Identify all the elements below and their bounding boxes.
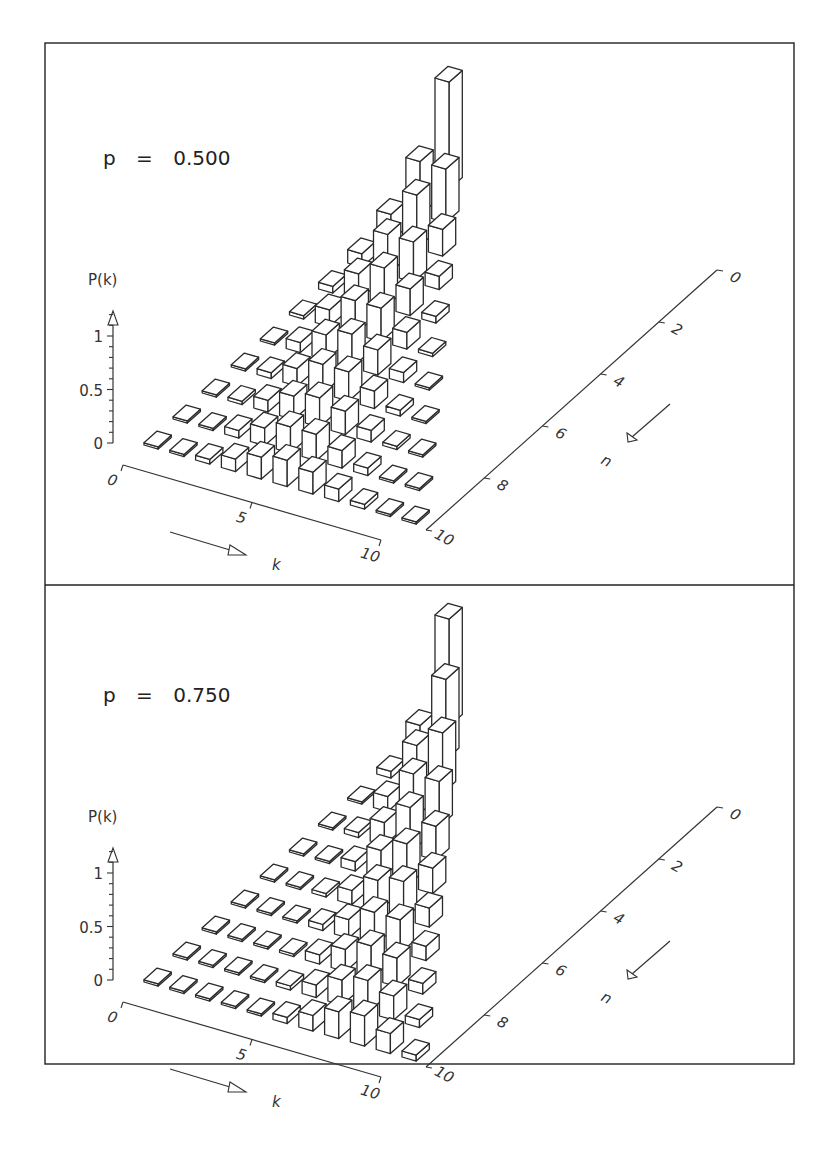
- bar: [251, 965, 278, 983]
- bar: [260, 327, 287, 345]
- bar: [257, 898, 284, 916]
- bar-top-face: [280, 938, 307, 954]
- bar: [409, 968, 436, 995]
- bar-grid: [144, 603, 462, 1061]
- bar: [173, 405, 200, 423]
- n-axis-tick-label: 6: [552, 423, 569, 443]
- bar-top-face: [228, 386, 255, 402]
- bar-top-face: [260, 327, 287, 343]
- bar-top-face: [173, 405, 200, 421]
- bar: [247, 441, 274, 479]
- bar: [254, 931, 281, 949]
- bar-top-face: [380, 465, 407, 481]
- figure: p = 0.500 00.51P(k)0510k0246810n p = 0.7…: [0, 0, 830, 1166]
- bar-top-face: [225, 957, 252, 973]
- bar: [315, 846, 342, 864]
- bar-top-face: [286, 872, 313, 888]
- bar: [405, 1004, 432, 1028]
- bar: [228, 386, 255, 405]
- p-axis-tick-label: 0: [93, 435, 103, 453]
- bar: [364, 334, 391, 375]
- bar-top-face: [290, 300, 317, 316]
- n-axis-title: n: [598, 988, 615, 1008]
- bar-top-face: [350, 489, 377, 505]
- bar: [348, 786, 375, 804]
- bar-top-face: [144, 431, 171, 447]
- bar-front-face: [419, 864, 433, 894]
- bar-top-face: [170, 976, 197, 992]
- k-axis-tick: [121, 465, 123, 471]
- n-axis-line: [426, 270, 717, 530]
- bar: [419, 338, 446, 357]
- n-axis-tick: [601, 911, 607, 912]
- bar-top-face: [419, 338, 446, 354]
- n-axis-tick: [659, 322, 665, 323]
- bar: [409, 439, 436, 457]
- bar: [402, 506, 429, 524]
- bar-top-face: [312, 878, 339, 894]
- bar-top-face: [228, 924, 255, 940]
- bar: [350, 489, 377, 510]
- bar: [257, 357, 284, 379]
- bar-top-face: [415, 372, 442, 388]
- bar-front-face: [364, 346, 378, 375]
- k-direction-arrow-icon: [228, 1082, 246, 1092]
- k-axis-tick-label: 10: [359, 544, 382, 567]
- bar: [199, 413, 226, 431]
- bar: [344, 817, 371, 838]
- panel-p-0750: p = 0.750 00.51P(k)0510k0246810n: [79, 603, 744, 1111]
- bar-top-face: [412, 406, 439, 422]
- bar: [221, 443, 248, 471]
- bar-top-face: [196, 983, 223, 999]
- bar: [312, 878, 339, 897]
- bar: [199, 950, 226, 968]
- bar-top-face: [247, 998, 274, 1014]
- bar-top-face: [202, 379, 229, 395]
- n-axis-line: [426, 807, 717, 1067]
- bar-top-face: [319, 812, 346, 828]
- bar-top-face: [231, 353, 258, 369]
- bar-grid: [144, 66, 462, 524]
- bar: [144, 431, 171, 449]
- bar-top-face: [383, 431, 410, 447]
- n-axis-tick: [426, 530, 432, 531]
- bar: [325, 996, 352, 1039]
- bar: [225, 957, 252, 975]
- bar: [402, 1039, 429, 1061]
- bar: [376, 499, 403, 517]
- bar: [290, 838, 317, 856]
- bar: [357, 415, 384, 443]
- bar-top-face: [173, 942, 200, 958]
- p-axis-title: P(k): [88, 808, 117, 826]
- bar-top-face: [199, 950, 226, 966]
- bar: [273, 445, 300, 487]
- n-axis-tick-label: 0: [727, 804, 744, 824]
- n-axis-title: n: [598, 451, 615, 471]
- bar-top-face: [402, 506, 429, 522]
- bar: [360, 375, 387, 408]
- bar: [319, 812, 346, 830]
- bar: [299, 1000, 326, 1031]
- bar: [231, 353, 258, 371]
- bar-top-face: [405, 473, 432, 489]
- bar-top-face: [251, 965, 278, 981]
- bar: [170, 976, 197, 994]
- n-axis-tick: [484, 478, 490, 479]
- n-axis-tick-label: 4: [611, 908, 628, 928]
- bar: [319, 271, 346, 294]
- bar: [170, 439, 197, 457]
- p-axis-tick-label: 0: [93, 972, 103, 990]
- bar-front-face: [380, 992, 394, 1020]
- bar: [196, 983, 223, 1001]
- panel-p-label: p = 0.750: [103, 683, 230, 707]
- bar: [202, 916, 229, 934]
- bar-front-face: [350, 1012, 364, 1046]
- bar: [202, 379, 229, 397]
- n-axis-tick-label: 6: [552, 960, 569, 980]
- k-axis-tick-label: 0: [105, 470, 119, 490]
- bar-front-face: [396, 285, 410, 316]
- bar-top-face: [202, 916, 229, 932]
- bar-top-face: [231, 890, 258, 906]
- n-axis-tick-label: 8: [494, 1012, 511, 1032]
- n-axis-tick-label: 10: [432, 1062, 457, 1087]
